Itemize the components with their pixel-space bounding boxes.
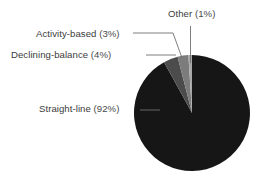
pie-label-other-name: Other xyxy=(168,8,192,19)
pie-label-other: Other (1%) xyxy=(168,8,215,19)
pie-label-declining-balance-close-paren: ) xyxy=(108,49,111,60)
pie-label-activity-based-close-paren: ) xyxy=(116,28,119,39)
pie-label-straight-line-close-paren: ) xyxy=(116,103,119,114)
pie-label-activity-based-name: Activity-based xyxy=(36,28,96,39)
pie-chart-canvas xyxy=(0,0,269,179)
pie-slices xyxy=(134,55,250,171)
pie-label-activity-based-percent: 3% xyxy=(102,28,116,39)
pie-label-straight-line-name: Straight-line xyxy=(39,103,91,114)
leader-line-activity-based xyxy=(133,33,182,58)
pie-label-other-percent: 1% xyxy=(198,8,212,19)
pie-label-straight-line: Straight-line (92%) xyxy=(39,103,119,114)
pie-label-straight-line-percent: 92% xyxy=(97,103,116,114)
pie-label-other-close-paren: ) xyxy=(212,8,215,19)
pie-label-declining-balance: Declining-balance (4%) xyxy=(11,49,111,60)
pie-label-declining-balance-percent: 4% xyxy=(94,49,108,60)
pie-chart-figure: Other (1%) Activity-based (3%) Declining… xyxy=(0,0,269,179)
pie-label-declining-balance-name: Declining-balance xyxy=(11,49,88,60)
pie-label-activity-based: Activity-based (3%) xyxy=(36,28,120,39)
